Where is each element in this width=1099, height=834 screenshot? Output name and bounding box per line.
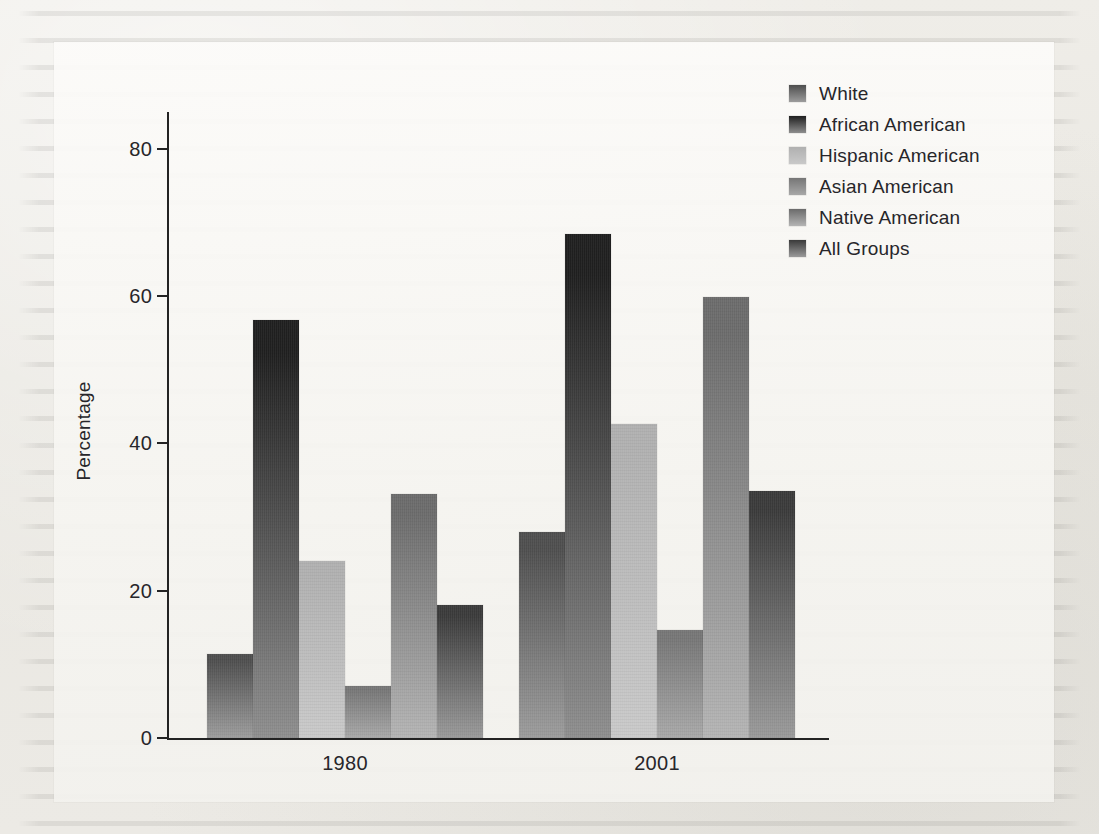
x-axis-label-1980: 1980 bbox=[265, 752, 425, 775]
y-axis-tick-label: 20 bbox=[90, 581, 152, 601]
bar-chart: 806040200 Percentage 19802001 WhiteAfric… bbox=[0, 0, 1099, 834]
y-axis-tick bbox=[157, 295, 168, 297]
y-axis-tick-label: 0 bbox=[90, 728, 152, 748]
bar bbox=[299, 561, 345, 738]
legend-swatch-icon bbox=[789, 147, 806, 164]
y-axis-tick bbox=[157, 590, 168, 592]
x-axis-label-2001: 2001 bbox=[577, 752, 737, 775]
y-axis-tick-value: 20 bbox=[108, 581, 152, 601]
legend-item: All Groups bbox=[789, 233, 1029, 264]
bar-group-2001 bbox=[519, 112, 795, 738]
legend-swatch-icon bbox=[789, 209, 806, 226]
legend-swatch-icon bbox=[789, 178, 806, 195]
bar bbox=[749, 491, 795, 738]
chart-legend: WhiteAfrican AmericanHispanic AmericanAs… bbox=[789, 78, 1029, 264]
bar bbox=[207, 654, 253, 738]
y-axis-tick bbox=[157, 148, 168, 150]
legend-item-label: Asian American bbox=[819, 177, 954, 196]
bar bbox=[253, 320, 299, 738]
bar bbox=[519, 532, 565, 738]
bar bbox=[611, 424, 657, 738]
y-axis-tick-label: 40 bbox=[90, 433, 152, 453]
legend-swatch-icon bbox=[789, 85, 806, 102]
y-axis-tick-label: 80 bbox=[90, 139, 152, 159]
y-axis-tick-value: 0 bbox=[108, 728, 152, 748]
legend-item-label: African American bbox=[819, 115, 966, 134]
legend-item: Native American bbox=[789, 202, 1029, 233]
y-axis-tick-value: 60 bbox=[108, 286, 152, 306]
bar bbox=[703, 297, 749, 738]
legend-item: Asian American bbox=[789, 171, 1029, 202]
bar bbox=[345, 686, 391, 738]
bar bbox=[437, 605, 483, 738]
bar bbox=[657, 630, 703, 738]
y-axis-tick bbox=[157, 737, 168, 739]
y-axis-tick-label: 60 bbox=[90, 286, 152, 306]
legend-item-label: Native American bbox=[819, 208, 960, 227]
x-axis-line bbox=[167, 738, 829, 740]
y-axis-tick-value: 80 bbox=[108, 139, 152, 159]
plot-area bbox=[169, 112, 829, 738]
legend-item: African American bbox=[789, 109, 1029, 140]
y-axis-tick-value: 40 bbox=[108, 433, 152, 453]
legend-item-label: White bbox=[819, 84, 869, 103]
bar bbox=[565, 234, 611, 738]
legend-swatch-icon bbox=[789, 116, 806, 133]
bar bbox=[391, 494, 437, 738]
y-axis-tick bbox=[157, 442, 168, 444]
bar-group-1980 bbox=[207, 112, 483, 738]
legend-item: White bbox=[789, 78, 1029, 109]
y-axis-title: Percentage bbox=[73, 341, 95, 521]
legend-item-label: All Groups bbox=[819, 239, 910, 258]
legend-swatch-icon bbox=[789, 240, 806, 257]
legend-item-label: Hispanic American bbox=[819, 146, 980, 165]
legend-item: Hispanic American bbox=[789, 140, 1029, 171]
